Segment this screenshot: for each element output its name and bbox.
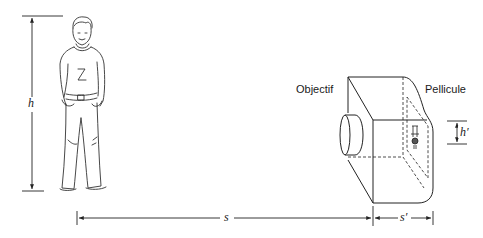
lens	[340, 115, 363, 155]
distance-dimensions	[77, 206, 433, 226]
image-distance-label: s′	[398, 211, 409, 223]
diagram-canvas	[0, 0, 483, 238]
lens-label: Objectif	[296, 84, 333, 95]
person-figure	[60, 17, 106, 191]
film-label: Pellicule	[425, 84, 466, 95]
inverted-image	[411, 126, 419, 149]
image-height-label: h′	[458, 126, 471, 138]
object-distance-label: s	[222, 211, 231, 223]
object-height-label: h	[26, 97, 36, 109]
